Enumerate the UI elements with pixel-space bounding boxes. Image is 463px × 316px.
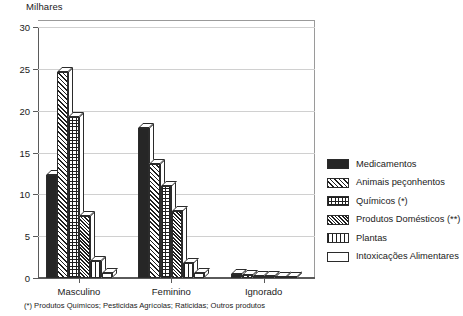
bar <box>46 175 57 278</box>
legend-item-label: Químicos (*) <box>356 197 408 206</box>
y-axis-tick <box>33 278 38 279</box>
y-axis-tick-label: 0 <box>25 273 30 284</box>
legend-swatch-icon <box>327 252 349 262</box>
legend-item[interactable]: Intoxicações Alimentares <box>327 248 459 267</box>
bar <box>68 117 79 278</box>
y-axis-tick <box>33 27 38 28</box>
bar-front-face <box>161 186 172 278</box>
legend-item-label: Plantas <box>356 234 387 243</box>
bar-front-face <box>90 261 101 278</box>
bar-front-face <box>102 273 113 278</box>
bar <box>149 164 160 278</box>
y-axis-tick-label: 10 <box>19 189 30 200</box>
plot-area: 051015202530 MasculinoFemininoIgnorado <box>38 27 315 278</box>
bar <box>253 276 264 279</box>
bar <box>194 273 205 278</box>
bar-front-face <box>194 273 205 278</box>
y-axis-tick-label: 15 <box>19 147 30 158</box>
y-axis-tick <box>33 111 38 112</box>
bar-front-face <box>149 164 160 278</box>
bar-front-face <box>264 276 275 278</box>
bar <box>102 273 113 278</box>
x-axis-tick <box>264 278 265 283</box>
legend-item[interactable]: Plantas <box>327 229 459 248</box>
y-axis-tick-label: 30 <box>19 22 30 33</box>
y-axis-tick <box>33 236 38 237</box>
chart-depth-top-edge <box>38 20 315 27</box>
chart-footnote: (*) Produtos Químicos; Pesticidas Agríco… <box>24 301 265 310</box>
legend-item-label: Produtos Domésticos (**) <box>356 215 460 224</box>
bar-front-face <box>183 263 194 278</box>
bar-front-face <box>68 117 79 278</box>
bar <box>242 275 253 278</box>
bar-front-face <box>46 175 57 278</box>
legend-item-label: Medicamentos <box>356 160 416 169</box>
bar-front-face <box>242 275 253 278</box>
bar <box>138 128 149 278</box>
bar-group <box>46 27 112 278</box>
bar-front-face <box>231 274 242 278</box>
bar-group <box>138 27 204 278</box>
legend-item-label: Intoxicações Alimentares <box>356 252 459 261</box>
legend-item[interactable]: Produtos Domésticos (**) <box>327 211 459 230</box>
bar-front-face <box>172 211 183 278</box>
bar <box>231 274 242 278</box>
bar <box>79 216 90 278</box>
legend-swatch-icon <box>327 215 349 225</box>
y-axis-tick-label: 5 <box>25 231 30 242</box>
bar <box>183 263 194 278</box>
bar <box>90 261 101 278</box>
legend-swatch-icon <box>327 159 349 169</box>
bar-front-face <box>57 72 68 278</box>
bar-chart: Milhares 051015202530 MasculinoFemininoI… <box>0 0 463 316</box>
bar-front-face <box>275 276 286 278</box>
legend-item[interactable]: Animais peçonhentos <box>327 174 459 193</box>
bar-group <box>231 27 297 278</box>
legend-item-label: Animais peçonhentos <box>356 178 445 187</box>
chart-legend: MedicamentosAnimais peçonhentosQuímicos … <box>327 155 459 266</box>
bar <box>172 211 183 278</box>
bar-front-face <box>138 128 149 278</box>
legend-item[interactable]: Químicos (*) <box>327 192 459 211</box>
y-axis-tick-label: 25 <box>19 63 30 74</box>
y-axis-unit-caption: Milhares <box>26 1 63 12</box>
legend-swatch-icon <box>327 178 349 188</box>
bar <box>264 276 275 278</box>
x-axis-category-label: Feminino <box>152 286 191 297</box>
legend-item[interactable]: Medicamentos <box>327 155 459 174</box>
bar-front-face <box>286 276 297 278</box>
x-axis-category-label: Ignorado <box>245 286 283 297</box>
y-axis-tick-label: 20 <box>19 105 30 116</box>
bar-front-face <box>79 216 90 278</box>
legend-swatch-icon <box>327 196 349 206</box>
y-axis-tick <box>33 153 38 154</box>
x-axis-category-label: Masculino <box>58 286 101 297</box>
bar <box>275 277 286 278</box>
y-axis-tick <box>33 194 38 195</box>
x-axis-tick <box>171 278 172 283</box>
legend-swatch-icon <box>327 233 349 243</box>
bar <box>57 72 68 278</box>
x-axis-tick <box>79 278 80 283</box>
bar <box>161 186 172 278</box>
y-axis-tick <box>33 69 38 70</box>
bar-front-face <box>253 276 264 279</box>
bar <box>286 277 297 278</box>
